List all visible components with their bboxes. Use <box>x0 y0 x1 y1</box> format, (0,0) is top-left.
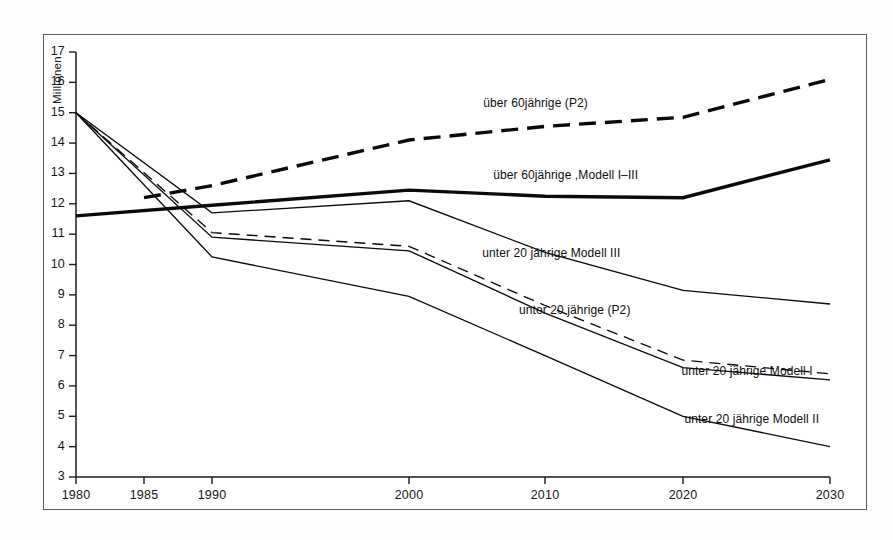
series-label-0: über 60jährige (P2) <box>483 96 588 110</box>
line-chart-canvas <box>0 0 893 540</box>
y-tick-label: 5 <box>39 408 65 422</box>
series-line-5 <box>76 113 830 447</box>
x-tick-label: 2020 <box>659 488 707 502</box>
x-tick-label: 2010 <box>521 488 569 502</box>
x-tick-label: 2030 <box>806 488 854 502</box>
x-tick-label: 1990 <box>188 488 236 502</box>
series-label-1: über 60jährige ,Modell I–III <box>493 168 638 182</box>
y-tick-label: 3 <box>39 469 65 483</box>
y-tick-label: 10 <box>39 257 65 271</box>
series-line-3 <box>76 113 830 374</box>
series-label-3: unter 20 jährige (P2) <box>519 303 631 317</box>
series-label-5: unter 20 jährige Modell II <box>684 412 819 426</box>
y-tick-label: 16 <box>39 74 65 88</box>
y-tick-label: 13 <box>39 165 65 179</box>
y-tick-label: 6 <box>39 378 65 392</box>
y-tick-label: 14 <box>39 135 65 149</box>
x-tick-label: 2000 <box>385 488 433 502</box>
y-tick-label: 11 <box>39 226 65 240</box>
y-tick-label: 8 <box>39 317 65 331</box>
y-tick-label: 12 <box>39 196 65 210</box>
series-label-4: unter 20 jährige Modell I <box>681 364 812 378</box>
chart-page: Millionen 345678910111213141516171980198… <box>0 0 893 540</box>
y-tick-label: 9 <box>39 287 65 301</box>
series-label-2: unter 20 jährige Modell III <box>482 246 620 260</box>
x-tick-label: 1980 <box>52 488 100 502</box>
series-line-4 <box>76 113 830 380</box>
y-tick-label: 17 <box>39 44 65 58</box>
series-line-1 <box>76 160 830 216</box>
y-tick-label: 7 <box>39 348 65 362</box>
x-tick-label: 1985 <box>120 488 168 502</box>
y-tick-label: 4 <box>39 439 65 453</box>
y-tick-label: 15 <box>39 105 65 119</box>
